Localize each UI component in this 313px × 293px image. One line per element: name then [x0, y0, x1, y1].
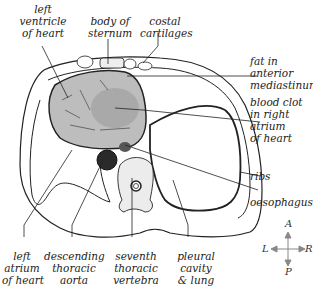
label-left-atrium: left atrium of heart: [2, 250, 42, 286]
label-body-of-sternum: body of sternum: [88, 15, 132, 39]
label-descending-thoracic-aorta: descending thoracic aorta: [44, 250, 104, 286]
label-left-ventricle: left ventricle of heart: [18, 3, 68, 39]
label-pleural-cavity-lung: pleural cavity & lung: [174, 250, 218, 286]
compass-anterior: A: [285, 218, 292, 229]
thorax-cross-section-diagram: left ventricle of heart body of sternum …: [0, 0, 313, 293]
compass-right: R: [305, 243, 313, 254]
vertebral-canal: [131, 181, 141, 191]
compass-arrows: [271, 232, 305, 266]
label-seventh-thoracic-vertebra: seventh thoracic vertebra: [112, 250, 160, 286]
costal-cartilage: [138, 62, 152, 70]
compass-left: L: [262, 243, 269, 254]
label-ribs: ribs: [250, 170, 271, 182]
label-fat-anterior-mediastinum: fat in anterior mediastinum: [250, 55, 313, 91]
label-costal-cartilages: costal cartilages: [140, 15, 190, 39]
label-blood-clot-right-atrium: blood clot in right atrium of heart: [250, 96, 303, 144]
compass-posterior: P: [285, 266, 292, 277]
costal-cartilage: [77, 56, 93, 68]
sternum: [100, 58, 124, 68]
label-oesophagus: oesophagus: [250, 196, 313, 208]
costal-cartilage: [124, 59, 136, 69]
oesophagus: [119, 142, 131, 152]
